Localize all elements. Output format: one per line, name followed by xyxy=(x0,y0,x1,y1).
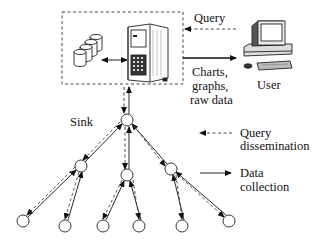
legend-query-label-1: Query xyxy=(240,126,272,140)
sensor-node xyxy=(59,220,71,232)
charts-label-2: graphs, xyxy=(192,79,228,93)
sink-node xyxy=(121,114,133,126)
charts-label-1: Charts, xyxy=(192,65,228,79)
sensor-node xyxy=(17,215,29,227)
sensor-node xyxy=(165,163,177,175)
sensor-node xyxy=(75,160,87,172)
legend-query-label-2: dissemination xyxy=(240,139,310,153)
server-icon xyxy=(128,24,168,82)
user-computer-icon xyxy=(244,21,292,70)
user-label: User xyxy=(257,78,281,92)
legend-data-label-1: Data xyxy=(240,166,264,180)
sensor-node xyxy=(223,215,235,227)
sensor-node xyxy=(176,220,188,232)
legend-data-label-2: collection xyxy=(240,180,290,194)
query-label: Query xyxy=(194,11,226,25)
sink-label: Sink xyxy=(70,115,94,129)
sensor-node xyxy=(133,220,145,232)
database-icon xyxy=(74,35,102,67)
sensor-network-diagram: Query Charts, graphs, raw data User Sink xyxy=(0,0,326,245)
sensor-node xyxy=(121,169,133,181)
sensor-node xyxy=(97,220,109,232)
charts-label-3: raw data xyxy=(190,93,233,107)
legend: Query dissemination Data collection xyxy=(200,126,310,194)
